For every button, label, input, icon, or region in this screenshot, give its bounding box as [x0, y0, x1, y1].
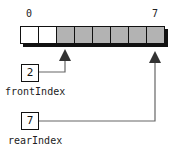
rear-index-value-box: 7	[21, 112, 39, 130]
rear-index-label: rearIndex	[8, 135, 62, 146]
front-index-value-box: 2	[21, 64, 39, 82]
rear-arrowhead-icon	[149, 51, 161, 63]
front-pointer-arrow	[39, 49, 71, 72]
front-index-label: frontIndex	[5, 86, 65, 97]
front-arrowhead-icon	[59, 49, 71, 61]
